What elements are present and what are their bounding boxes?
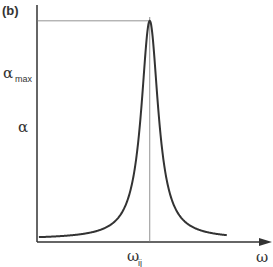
lorentzian-curve xyxy=(39,21,227,237)
x-tick-subscript: ij xyxy=(138,258,142,267)
panel-label: (b) xyxy=(2,3,19,18)
x-tick-omega-ij: ω ij xyxy=(127,247,142,267)
y-tick-subscript: max xyxy=(15,74,33,84)
lorentzian-chart: (b) α max α ω ij ω xyxy=(0,0,273,267)
x-axis-arrow-icon xyxy=(259,238,272,246)
y-tick-label: α xyxy=(3,64,13,82)
y-tick-alpha-max: α max xyxy=(3,64,33,84)
x-axis-label: ω xyxy=(256,248,268,266)
y-axis-label: α xyxy=(18,118,28,136)
